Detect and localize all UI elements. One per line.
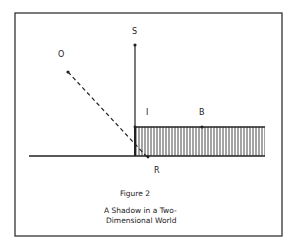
point-i-dot <box>134 126 137 129</box>
shadow-region <box>135 127 265 156</box>
label-i: I <box>146 109 148 117</box>
figure-border <box>15 13 282 236</box>
label-b: B <box>199 109 205 117</box>
figure-title: Figure 2 <box>120 189 150 198</box>
point-b-dot <box>200 125 203 128</box>
figure-caption-line2: Dimensional World <box>106 216 176 225</box>
label-r: R <box>154 167 160 175</box>
point-r-dot <box>147 156 150 159</box>
point-s-dot <box>133 43 136 46</box>
point-o-dot <box>66 70 69 73</box>
label-s: S <box>132 28 137 36</box>
label-o: O <box>58 51 64 59</box>
light-ray-dashed <box>68 72 148 158</box>
figure-caption-line1: A Shadow in a Two- <box>104 206 177 215</box>
